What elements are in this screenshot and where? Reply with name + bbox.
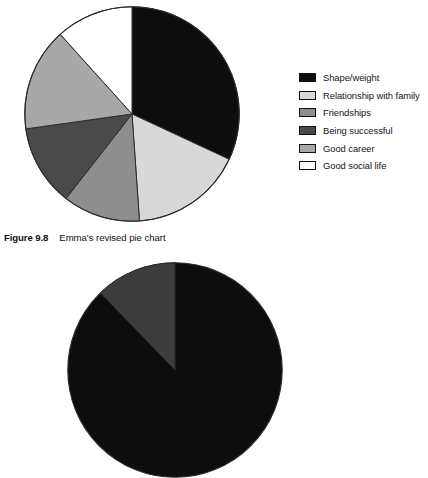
legend-label: Relationship with family <box>323 90 420 101</box>
figure-9-8-block: Shape/weightRelationship with familyFrie… <box>0 0 428 253</box>
legend-swatch <box>299 126 316 135</box>
legend-label: Friendships <box>323 107 371 118</box>
legend-swatch <box>299 73 316 82</box>
pie-chart-main-svg <box>24 6 240 222</box>
legend-swatch <box>299 108 316 117</box>
pie-chart-main <box>24 6 240 222</box>
legend-label: Good career <box>323 143 375 154</box>
legend-item: Good social life <box>299 157 428 175</box>
legend-swatch <box>299 161 316 170</box>
pie-chart-secondary <box>67 262 283 478</box>
figure-caption: Figure 9.8Emma's revised pie chart <box>4 232 166 243</box>
legend-swatch <box>299 144 316 153</box>
pie-chart-secondary-svg <box>67 262 283 478</box>
legend-swatch <box>299 91 316 100</box>
legend-label: Being successful <box>323 125 393 136</box>
legend-item: Friendships <box>299 104 428 122</box>
legend-item: Shape/weight <box>299 69 428 87</box>
legend-label: Good social life <box>323 160 386 171</box>
legend-item: Good career <box>299 139 428 157</box>
figure-caption-text: Emma's revised pie chart <box>59 232 165 243</box>
chart-legend: Shape/weightRelationship with familyFrie… <box>299 69 428 175</box>
figure-caption-number: Figure 9.8 <box>4 232 48 243</box>
legend-item: Relationship with family <box>299 87 428 105</box>
legend-item: Being successful <box>299 122 428 140</box>
legend-label: Shape/weight <box>323 72 379 83</box>
pie-slice-group <box>25 7 239 221</box>
